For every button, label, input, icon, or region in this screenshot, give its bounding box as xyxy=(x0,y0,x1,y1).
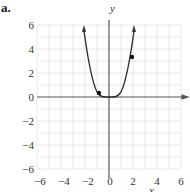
svg-text:0: 0 xyxy=(107,175,113,187)
svg-text:−6: −6 xyxy=(34,175,46,187)
marked-point-1 xyxy=(97,91,101,95)
svg-text:−2: −2 xyxy=(82,175,94,187)
chart-area: y x 6 4 2 0 −2 −4 −6 −6 −4 −2 0 2 4 6 xyxy=(0,0,190,192)
svg-text:6: 6 xyxy=(29,19,35,31)
svg-text:0: 0 xyxy=(29,91,35,103)
x-axis-label: x xyxy=(148,184,154,192)
svg-text:4: 4 xyxy=(154,175,160,187)
svg-text:2: 2 xyxy=(130,175,136,187)
axes xyxy=(37,20,188,178)
marked-point-2 xyxy=(130,55,134,59)
svg-text:−2: −2 xyxy=(22,115,34,127)
x-axis-arrow-icon xyxy=(182,95,188,99)
y-tick-labels: 6 4 2 0 −2 −4 −6 xyxy=(22,19,34,175)
svg-text:2: 2 xyxy=(29,67,35,79)
svg-text:4: 4 xyxy=(29,43,35,55)
svg-text:−4: −4 xyxy=(22,139,34,151)
svg-text:6: 6 xyxy=(178,175,184,187)
x-tick-labels: −6 −4 −2 0 2 4 6 xyxy=(34,175,184,187)
svg-text:−4: −4 xyxy=(58,175,70,187)
y-axis-label: y xyxy=(109,2,115,14)
svg-text:−6: −6 xyxy=(22,163,34,175)
